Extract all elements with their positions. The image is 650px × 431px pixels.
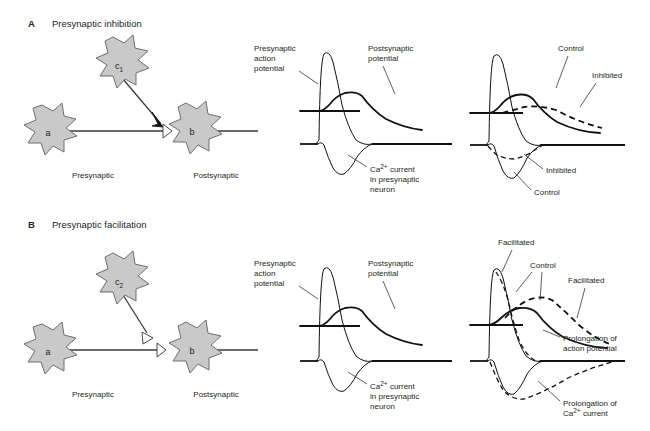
svg-text:Inhibited: Inhibited [546, 166, 576, 175]
label-calcium-line1-b: Ca2+ current [370, 380, 416, 392]
panel-b-right-traces: Facilitated Control Facilitated Prolonga… [470, 238, 625, 418]
svg-text:action: action [254, 269, 275, 278]
svg-text:Facilitated: Facilitated [568, 276, 604, 285]
svg-text:potential: potential [254, 279, 284, 288]
terminal-c1-filled-arrowhead [152, 112, 163, 127]
cell-a-label: a [45, 128, 50, 138]
leader-prolongation-calcium-current-b [538, 381, 560, 401]
svg-text:Inhibited: Inhibited [592, 71, 622, 80]
panel-b: B Presynaptic facilitation a b c2 [24, 219, 625, 418]
label-inhibited-lower-a: Inhibited [524, 154, 576, 175]
leader-control-top-b-2 [540, 272, 542, 300]
panel-b-circuit: a b c2 Presynaptic Postsynaptic [24, 251, 258, 399]
trace-postsynaptic-potential-a [300, 92, 422, 130]
cell-a-b: a [24, 322, 77, 374]
leader-postsynaptic-potential-a [383, 66, 395, 94]
svg-text:action: action [254, 54, 275, 63]
label-presynaptic-ap-b: Presynaptic action potential [254, 259, 318, 299]
leader-inhibited-lower-a [524, 154, 543, 169]
cell-c2: c2 [96, 251, 149, 304]
trace-calcium-current-b [318, 360, 372, 392]
label-inhibited-upper-a: Inhibited [580, 71, 622, 107]
svg-text:Facilitated: Facilitated [498, 238, 534, 247]
svg-text:Control: Control [534, 188, 560, 197]
svg-text:Control: Control [530, 261, 556, 270]
panel-b-title: Presynaptic facilitation [52, 219, 147, 230]
leader-postsynaptic-potential-b [383, 281, 395, 309]
svg-text:Postsynaptic: Postsynaptic [368, 259, 413, 268]
label-postsynaptic-potential-a: Postsynaptic potential [368, 44, 413, 94]
svg-text:neuron: neuron [370, 185, 395, 194]
svg-text:Control: Control [558, 44, 584, 53]
leader-control-upper-a [556, 56, 568, 88]
label-control-lower-a: Control [514, 172, 560, 197]
label-prolongation-calcium-current-b: Prolongation of Ca2+ current [538, 381, 618, 418]
cell-b: b [169, 101, 222, 154]
cell-b-label-b: b [189, 346, 194, 356]
cell-c1: c1 [96, 35, 149, 88]
label-presynaptic-ap-a: Presynaptic action potential [254, 44, 318, 84]
cell-a: a [24, 103, 77, 155]
panel-a-middle-traces: Presynaptic action potential Postsynapti… [254, 44, 452, 194]
trace-postsynaptic-inhibited-a [502, 106, 602, 128]
label-calcium-current-b: Ca2+ current in presynaptic neuron [348, 372, 419, 411]
trace-postsynaptic-potential-b [300, 307, 422, 345]
terminal-a-open-triangle [163, 124, 172, 138]
terminal-a-open-triangle-b [157, 343, 166, 357]
label-facilitated-top-b: Facilitated [498, 238, 534, 272]
panel-a-right-traces: Control Inhibited Inhibited Control [470, 44, 625, 197]
svg-text:Postsynaptic: Postsynaptic [368, 44, 413, 53]
svg-text:potential: potential [368, 54, 398, 63]
label-prolongation-calcium-line2-b: Ca2+ current [563, 407, 609, 419]
cell-b-label: b [189, 127, 194, 137]
svg-text:Prolongation of: Prolongation of [563, 334, 618, 343]
leader-inhibited-upper-a [580, 83, 596, 107]
trace-calcium-control-b [488, 360, 542, 395]
leader-facilitated-right-b [577, 288, 585, 318]
panel-a-letter: A [28, 18, 35, 29]
svg-text:neuron: neuron [370, 402, 395, 411]
svg-text:in presynaptic: in presynaptic [370, 392, 419, 401]
cell-b-b: b [169, 320, 222, 373]
leader-presynaptic-ap-b [299, 286, 318, 299]
figure-presynaptic-modulation: A Presynaptic inhibition a b [0, 0, 650, 431]
label-postsynaptic-side-a: Postsynaptic [193, 171, 238, 180]
label-presynaptic-side-b: Presynaptic [72, 390, 114, 399]
leader-control-top-b-1 [516, 272, 532, 292]
panel-b-letter: B [28, 219, 35, 230]
panel-a-circuit: a b c1 Presynaptic Postsynaptic [24, 35, 258, 180]
label-postsynaptic-side-b: Postsynaptic [193, 390, 238, 399]
label-control-top-b: Control [516, 261, 556, 300]
svg-text:in presynaptic: in presynaptic [370, 175, 419, 184]
label-control-upper-a: Control [556, 44, 584, 88]
panel-a-title: Presynaptic inhibition [52, 18, 142, 29]
label-postsynaptic-potential-b: Postsynaptic potential [368, 259, 413, 309]
trace-calcium-current-a [318, 143, 372, 175]
leader-presynaptic-ap-a [299, 71, 318, 84]
svg-text:potential: potential [368, 269, 398, 278]
label-facilitated-right-b: Facilitated [568, 276, 604, 318]
label-calcium-line1-a: Ca2+ current [370, 163, 416, 175]
leader-control-lower-a [514, 172, 531, 190]
label-calcium-current-a: Ca2+ current in presynaptic neuron [348, 155, 419, 194]
svg-text:Prolongation of: Prolongation of [563, 399, 618, 408]
svg-text:action potential: action potential [563, 344, 617, 353]
terminal-c2-open-triangle [142, 332, 153, 344]
cell-a-label-b: a [45, 347, 50, 357]
svg-text:potential: potential [254, 64, 284, 73]
trace-presynaptic-action-potential-control-b [486, 269, 542, 362]
leader-facilitated-top-b [502, 250, 512, 272]
svg-text:Presynaptic: Presynaptic [254, 259, 296, 268]
panel-a: A Presynaptic inhibition a b [24, 18, 625, 197]
label-presynaptic-side-a: Presynaptic [72, 171, 114, 180]
svg-text:Presynaptic: Presynaptic [254, 44, 296, 53]
label-prolongation-action-potential-b: Prolongation of action potential [543, 330, 618, 353]
panel-b-middle-traces: Presynaptic action potential Postsynapti… [254, 259, 452, 411]
